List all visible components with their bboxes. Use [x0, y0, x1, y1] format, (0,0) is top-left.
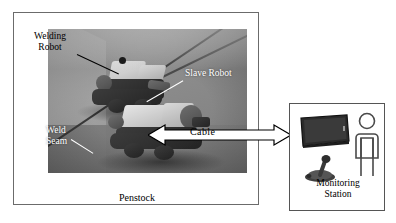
label-monitoring-line2: Station: [290, 189, 386, 200]
monitoring-station-panel: Monitoring Station: [289, 103, 385, 211]
label-welding-robot: Welding Robot: [34, 31, 66, 53]
label-weld-seam: Weld Seam: [46, 125, 67, 147]
label-monitoring-station: Monitoring Station: [290, 178, 386, 200]
label-penstock: Penstock: [14, 192, 260, 203]
label-cable: Cable: [190, 126, 215, 137]
label-slave-robot: Slave Robot: [185, 68, 232, 79]
welding-robot-leader-dot: [119, 57, 126, 64]
person-icon: [352, 112, 382, 178]
label-monitoring-line1: Monitoring: [290, 178, 386, 189]
penstock-panel: Welding Robot Slave Robot Weld Seam Pens…: [13, 12, 259, 205]
cable-arrow: [148, 122, 291, 148]
figure-canvas: Welding Robot Slave Robot Weld Seam Pens…: [0, 0, 396, 223]
monitor-icon: [299, 114, 351, 148]
